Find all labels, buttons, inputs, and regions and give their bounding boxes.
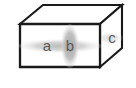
dimension-label-c: c: [108, 29, 116, 46]
box-diagram-svg: a b c: [0, 0, 136, 88]
dimension-label-b: b: [66, 37, 74, 54]
dimension-label-a: a: [43, 37, 52, 54]
dimension-a-highlight: [18, 39, 102, 53]
box-diagram-figure: a b c: [0, 0, 136, 88]
